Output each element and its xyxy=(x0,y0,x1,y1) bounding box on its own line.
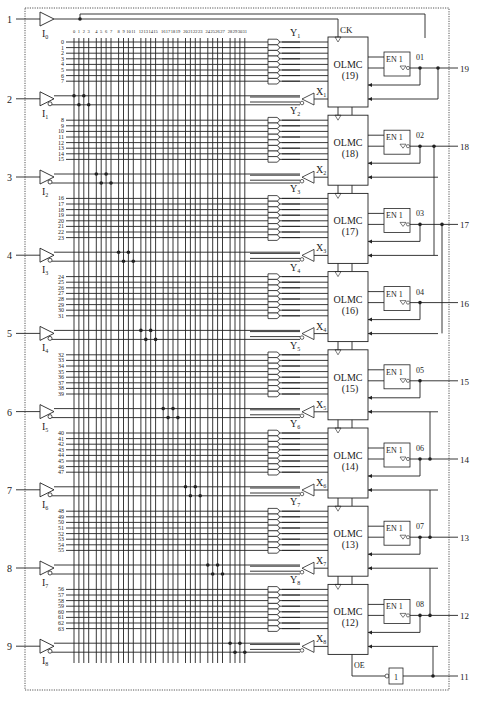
inverter-bubble-icon xyxy=(48,336,52,340)
input-label: I0 xyxy=(42,28,48,40)
inverter-bubble-icon xyxy=(48,258,52,262)
input-label: I2 xyxy=(42,186,48,198)
and-gate-icon xyxy=(268,50,280,56)
arrow-icon xyxy=(368,630,372,634)
junction-dot xyxy=(95,172,99,176)
and-gate-icon xyxy=(268,363,280,369)
arrow-icon xyxy=(368,552,372,556)
arrow-icon xyxy=(368,566,372,570)
and-gate-icon xyxy=(268,67,280,73)
and-gate-icon xyxy=(268,453,280,459)
olmc-name: OLMC xyxy=(334,59,363,70)
buffer-label: EN 1 xyxy=(386,211,403,220)
junction-dot xyxy=(132,259,136,263)
and-gate-icon xyxy=(268,235,280,241)
input-pin-number: 5 xyxy=(7,328,12,339)
and-gate-icon xyxy=(268,620,280,626)
and-gate-icon xyxy=(268,380,280,386)
olmc-name: OLMC xyxy=(334,137,363,148)
feedback-label: X4 xyxy=(316,321,326,333)
and-gate-icon xyxy=(268,458,280,464)
product-term-label: 31 xyxy=(58,313,64,319)
column-label: 27 xyxy=(220,29,225,34)
arrow-icon xyxy=(368,332,372,336)
buffer-label: EN 1 xyxy=(386,133,403,142)
output-pin-number: 14 xyxy=(460,455,470,465)
junction-dot xyxy=(436,66,440,70)
and-gate-icon xyxy=(268,296,280,302)
junction-dot xyxy=(166,416,170,420)
column-label: 8 xyxy=(117,29,120,34)
inverter-bubble-icon xyxy=(406,145,409,148)
inverter-bubble-icon xyxy=(406,457,409,460)
term-group-label: Y8 xyxy=(290,574,300,586)
inverter-bubble-icon xyxy=(385,674,389,678)
junction-dot xyxy=(161,407,165,411)
and-gate-icon xyxy=(268,436,280,442)
column-label: 0 xyxy=(73,29,76,34)
olmc-number: (14) xyxy=(342,461,359,473)
and-array-grid: 0123456789101112131415161718192021222324… xyxy=(58,29,300,663)
arrow-icon xyxy=(368,83,372,87)
olmc-number: (18) xyxy=(342,148,359,160)
feedback-label: X1 xyxy=(316,86,326,98)
and-gate-icon xyxy=(268,39,280,45)
and-gate-icon xyxy=(268,386,280,392)
input-pin-number: 7 xyxy=(7,485,12,496)
olmc-number: (19) xyxy=(342,70,359,82)
and-gate-icon xyxy=(268,274,280,280)
and-gate-icon xyxy=(268,592,280,598)
term-group-label: Y6 xyxy=(290,418,300,430)
buffer-label: EN 1 xyxy=(386,446,403,455)
and-gate-icon xyxy=(268,45,280,51)
junction-dot xyxy=(139,329,143,333)
and-gate-icon xyxy=(268,542,280,548)
junction-dot xyxy=(432,144,436,148)
and-gate-icon xyxy=(268,508,280,514)
olmc-number: (15) xyxy=(342,383,359,395)
and-gate-icon xyxy=(268,73,280,79)
and-gate-icon xyxy=(268,307,280,313)
column-label: 1 xyxy=(78,29,80,34)
junction-dot xyxy=(82,94,86,98)
and-gate-icon xyxy=(268,369,280,375)
junction-dot xyxy=(221,572,225,576)
product-term-label: 63 xyxy=(58,626,64,632)
output-label: 06 xyxy=(416,444,424,453)
input-pin-number: 2 xyxy=(7,94,12,105)
and-gate-icon xyxy=(268,157,280,163)
output-pin-number: 17 xyxy=(460,220,470,230)
inverter-bubble-icon xyxy=(48,571,52,575)
inverter-bubble-icon xyxy=(48,415,52,419)
and-gate-icon xyxy=(268,140,280,146)
input-label: I1 xyxy=(42,108,48,120)
and-gate-icon xyxy=(268,626,280,632)
column-label: 31 xyxy=(243,29,248,34)
junction-dot xyxy=(87,103,91,107)
arrow-icon xyxy=(368,396,372,400)
column-label: 19 xyxy=(176,29,181,34)
junction-dot xyxy=(127,250,131,254)
feedback-label: X6 xyxy=(316,477,326,489)
column-label: 2 xyxy=(83,29,85,34)
term-group-label: Y7 xyxy=(290,496,300,508)
inverter-bubble-icon xyxy=(48,493,52,497)
junction-dot xyxy=(428,614,432,618)
feedback-label: X3 xyxy=(316,242,326,254)
input-label: I8 xyxy=(42,655,48,667)
oe-gate-label: 1 xyxy=(394,673,398,682)
and-gate-icon xyxy=(268,207,280,213)
inverter-bubble-icon xyxy=(300,570,304,574)
and-gate-icon xyxy=(268,598,280,604)
buffer-label: EN 1 xyxy=(386,368,403,377)
arrow-icon xyxy=(368,239,372,243)
column-label: 11 xyxy=(131,29,135,34)
inverter-bubble-icon xyxy=(300,492,304,496)
olmc-name: OLMC xyxy=(334,450,363,461)
junction-dot xyxy=(154,338,158,342)
and-gate-icon xyxy=(268,313,280,319)
junction-dot xyxy=(211,572,215,576)
output-pin-number: 16 xyxy=(460,299,470,309)
olmc-name: OLMC xyxy=(334,294,363,305)
input-label: I3 xyxy=(42,264,48,276)
